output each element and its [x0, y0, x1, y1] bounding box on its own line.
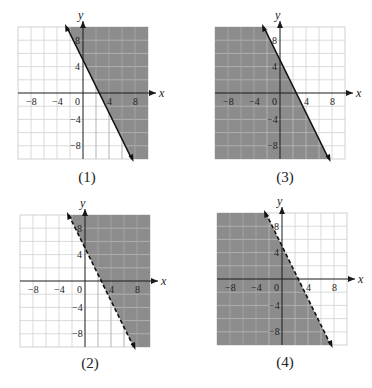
x-axis-arrow-icon [348, 276, 355, 282]
x-tick--4: −4 [249, 96, 260, 107]
y-tick-4: 4 [75, 61, 80, 72]
x-axis-arrow-icon [149, 90, 156, 96]
x-axis-arrow-icon [151, 278, 158, 284]
x-tick-4: 4 [306, 282, 311, 293]
y-tick--8: −8 [269, 326, 280, 337]
y-tick--8: −8 [267, 140, 278, 151]
x-axis-arrow-icon [346, 90, 353, 96]
x-tick-8: 8 [133, 96, 138, 107]
graph-4-plot: x y −8 −4 0 4 8 8 4 −4 −8 [217, 213, 347, 345]
y-tick-8: 8 [77, 223, 82, 234]
y-tick-8: 8 [75, 35, 80, 46]
x-axis-label: x [158, 86, 165, 100]
y-axis-label: y [274, 8, 281, 22]
x-tick-4: 4 [304, 96, 309, 107]
y-tick--4: −4 [72, 302, 83, 313]
y-tick-8: 8 [272, 35, 277, 46]
y-tick-4: 4 [274, 247, 279, 258]
x-tick-0: 0 [77, 284, 82, 295]
graph-2-caption: (2) [70, 355, 110, 372]
x-tick-8: 8 [135, 284, 140, 295]
graph-1-plot: x y −8 −4 0 4 8 8 4 −4 −8 [18, 27, 148, 159]
graph-4-caption: (4) [265, 354, 305, 371]
x-tick--4: −4 [52, 96, 63, 107]
x-axis-label: x [160, 274, 167, 288]
y-tick--8: −8 [70, 140, 81, 151]
graph-2-plot: x y −8 −4 0 4 8 8 4 −4 −8 [20, 215, 150, 347]
x-tick--4: −4 [251, 282, 262, 293]
graph-3-caption: (3) [265, 169, 305, 186]
x-tick-8: 8 [332, 282, 337, 293]
graph-3-plot: x y −8 −4 0 4 8 8 4 −4 −8 [215, 27, 345, 159]
x-tick-4: 4 [107, 96, 112, 107]
x-axis-label: x [355, 86, 362, 100]
graph-4: x y −8 −4 0 4 8 8 4 −4 −8 [217, 213, 347, 346]
x-tick--4: −4 [54, 284, 65, 295]
x-tick-0: 0 [274, 282, 279, 293]
y-axis-arrow-icon [277, 21, 283, 28]
y-tick-4: 4 [272, 61, 277, 72]
x-tick-8: 8 [330, 96, 335, 107]
x-tick--8: −8 [223, 96, 234, 107]
y-tick--4: −4 [269, 300, 280, 311]
y-tick-4: 4 [77, 249, 82, 260]
x-tick--8: −8 [225, 282, 236, 293]
x-axis-label: x [357, 272, 364, 286]
y-tick-8: 8 [274, 221, 279, 232]
y-tick--4: −4 [70, 114, 81, 125]
y-axis-arrow-icon [80, 21, 86, 28]
y-axis-arrow-icon [82, 209, 88, 216]
x-tick-4: 4 [109, 284, 114, 295]
graph-1-caption: (1) [67, 169, 107, 186]
x-tick-0: 0 [272, 96, 277, 107]
y-axis-arrow-icon [279, 207, 285, 214]
x-tick--8: −8 [28, 284, 39, 295]
graph-3: x y −8 −4 0 4 8 8 4 −4 −8 [215, 27, 345, 159]
graph-2: x y −8 −4 0 4 8 8 4 −4 −8 [20, 215, 150, 348]
y-tick--4: −4 [267, 114, 278, 125]
y-tick--8: −8 [72, 328, 83, 339]
graph-1: x y −8 −4 0 4 8 8 4 −4 −8 [18, 27, 148, 159]
x-tick--8: −8 [26, 96, 37, 107]
y-axis-label: y [79, 196, 86, 210]
y-axis-label: y [77, 8, 84, 22]
y-axis-label: y [276, 194, 283, 208]
x-tick-0: 0 [75, 96, 80, 107]
